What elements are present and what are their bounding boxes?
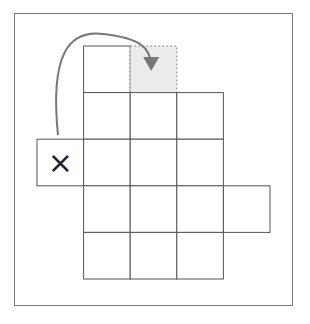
grid-cell	[130, 93, 177, 140]
target-cell	[130, 46, 177, 93]
grid-cell	[84, 46, 131, 93]
grid-cell	[177, 93, 224, 140]
net-diagram: ×	[0, 0, 310, 324]
grid-cell	[177, 139, 224, 186]
grid-cell	[84, 186, 131, 233]
x-mark: ×	[48, 145, 73, 180]
grid-cell	[177, 186, 224, 233]
grid-cell	[130, 186, 177, 233]
grid-cell	[84, 232, 131, 279]
grid-cell	[84, 139, 131, 186]
grid-cell	[130, 139, 177, 186]
grid-cell	[130, 232, 177, 279]
grid-cell	[84, 93, 131, 140]
grid-cell	[223, 186, 270, 233]
grid-cell	[177, 232, 224, 279]
